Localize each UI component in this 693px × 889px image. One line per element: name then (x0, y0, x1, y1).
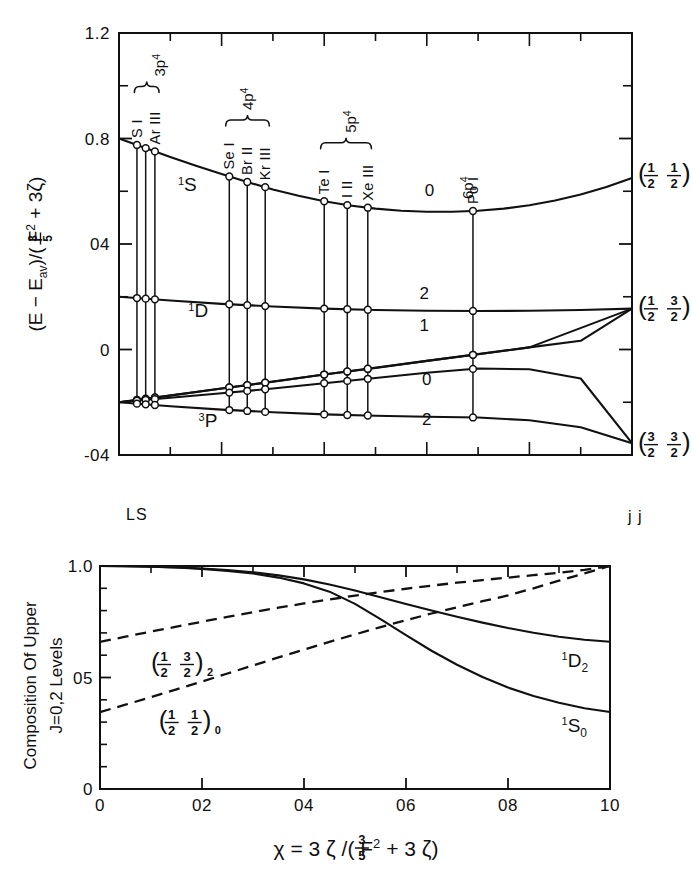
y-axis-title-line2-group: J=0,2 Levels (47, 638, 66, 734)
frac-numerator: 1 (160, 649, 167, 664)
data-point-marker (134, 142, 141, 149)
jj-limit-label: (1232) (638, 291, 691, 324)
paren-open: ( (638, 427, 647, 457)
config-label-group: 5p4 (341, 110, 359, 133)
paren-open: ( (151, 647, 160, 677)
frac-numerator: 3 (26, 235, 40, 242)
data-point-marker (244, 302, 251, 309)
config-label: 3p4 (150, 54, 168, 77)
data-point-marker (321, 380, 328, 387)
data-point-marker (152, 296, 159, 303)
frac-denominator: 2 (191, 723, 198, 738)
j-value-label: 2 (420, 284, 429, 303)
y-tick-label: 0.8 (85, 130, 110, 149)
data-point-marker (470, 208, 477, 215)
paren-close: ) (682, 427, 691, 457)
config-brace (134, 81, 159, 92)
frac-denominator: 2 (670, 176, 677, 191)
x-tick-label: 04 (294, 796, 314, 815)
y-tick-label: 0 (100, 341, 110, 360)
element-label: Kr III (257, 147, 273, 180)
j-value-label: 2 (422, 410, 431, 429)
data-point-marker (262, 386, 269, 393)
data-point-marker (364, 375, 371, 382)
data-point-marker (321, 198, 328, 205)
data-point-marker (344, 202, 351, 209)
energy-curve (119, 309, 632, 403)
data-point-marker (226, 173, 233, 180)
data-point-marker (470, 414, 477, 421)
element-label: Br II (239, 146, 255, 175)
data-point-marker (134, 295, 141, 302)
energy-curve (119, 368, 632, 443)
y-tick-label: 1.0 (68, 557, 93, 576)
data-point-marker (470, 366, 477, 373)
data-point-marker (344, 368, 351, 375)
data-point-marker (470, 351, 477, 358)
x-axis-title-group: χ = 3 ζ /( F2 + 3 ζ)35 (274, 832, 439, 863)
data-point-marker (364, 204, 371, 211)
frac-numerator: 1 (647, 293, 654, 308)
y-axis-title-line2: J=0,2 Levels (47, 638, 66, 734)
data-point-marker (152, 402, 159, 409)
element-label: Xe III (360, 164, 376, 200)
plot-frame-composition (100, 566, 610, 789)
energy-level-chart: 1.20.8040-04S IAr IIISe IBr IIKr IIITe I… (24, 24, 691, 465)
energy-curve (119, 309, 632, 403)
jj-0-label: (1212)0 (159, 705, 221, 738)
frac-denominator: 2 (183, 665, 190, 680)
1S0-label: 1S0 (562, 715, 588, 740)
data-point-marker (262, 184, 269, 191)
frac-numerator: 1 (191, 707, 198, 722)
y-tick-label: 0 (83, 780, 93, 799)
data-point-marker (142, 145, 149, 152)
data-point-marker (262, 379, 269, 386)
data-point-marker (244, 388, 251, 395)
data-point-marker (226, 407, 233, 414)
frac-denominator: 2 (647, 445, 654, 460)
frac-denominator: 2 (168, 723, 175, 738)
element-label: S I (129, 119, 145, 138)
data-point-marker (142, 401, 149, 408)
frac-numerator: 3 (183, 649, 190, 664)
frac-denominator: 5 (41, 235, 55, 242)
element-label: Se I (221, 142, 237, 169)
frac-denominator: 2 (160, 665, 167, 680)
composition-chart: 1.005000204060810(1232)2(1212)01D21S0Com… (21, 557, 620, 863)
y-axis-title-energy: (E − Eav)/( F2 + 3ζ)35 (24, 177, 55, 332)
frac-numerator: 3 (358, 832, 365, 847)
jj-coupling-label-right: j j (627, 508, 643, 525)
energy-curve (119, 402, 632, 443)
jj-limit-label: (3232) (638, 427, 691, 460)
frac-numerator: 3 (670, 293, 677, 308)
data-point-marker (142, 295, 149, 302)
config-label: 4p4 (238, 87, 256, 110)
frac-numerator: 3 (647, 429, 654, 444)
paren-open: ( (159, 705, 168, 735)
y-tick-label: -04 (84, 446, 110, 465)
y-tick-label: 04 (90, 235, 110, 254)
element-label: Ar III (147, 111, 163, 144)
jj-limit-label: (1212) (638, 158, 691, 191)
j-value-label: 1 (420, 316, 429, 335)
jj-2-label: (1232)2 (151, 647, 213, 680)
frac-denominator: 2 (647, 309, 654, 324)
config-label: 5p4 (341, 110, 359, 133)
1D2-label: 1D2 (562, 650, 589, 675)
config-label-group: 3p4 (150, 54, 168, 77)
y-axis-title-line1-group: Composition Of Upper (21, 601, 40, 770)
data-point-marker (364, 412, 371, 419)
data-point-marker (321, 371, 328, 378)
j-subscript: 2 (207, 666, 213, 678)
y-axis-title-text: (E − Eav)/( F2 + 3ζ) (24, 177, 50, 332)
x-tick-label: 06 (396, 796, 416, 815)
frac-numerator: 1 (647, 160, 654, 175)
frac-numerator: 3 (670, 429, 677, 444)
data-point-marker (470, 308, 477, 315)
paren-open: ( (638, 291, 647, 321)
data-point-marker (344, 377, 351, 384)
term-label: 1D (188, 300, 208, 321)
j-value-label: 0 (425, 181, 434, 200)
data-point-marker (321, 305, 328, 312)
paren-close: ) (195, 647, 204, 677)
